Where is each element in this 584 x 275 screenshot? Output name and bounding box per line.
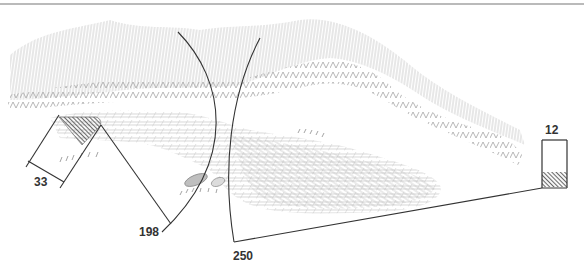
terrain-diagram: 33 198 250 12 (0, 0, 584, 275)
dimension-label-250: 250 (233, 250, 253, 262)
diagram-canvas (0, 0, 584, 275)
dimension-label-12: 12 (545, 124, 558, 136)
dimension-label-33: 33 (34, 176, 47, 188)
dimension-label-198: 198 (139, 226, 159, 238)
dimension-12-cylinder (542, 140, 567, 188)
